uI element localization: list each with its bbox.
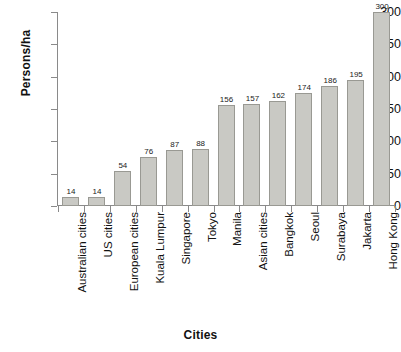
x-axis-label-slot: US cities [84, 212, 110, 322]
x-axis-label-slot: Bangkok [265, 212, 291, 322]
x-axis-title: Cities [0, 328, 401, 342]
bar-slot: 54 [110, 12, 136, 206]
bar [218, 105, 235, 206]
bar-chart: Persons/ha 050100150200250300 1414547687… [0, 0, 401, 352]
bars-container: 141454768788156157162174186195300 [58, 12, 395, 206]
bar-slot: 87 [162, 12, 188, 206]
bar-slot: 186 [317, 12, 343, 206]
x-axis-label-slot: European cities [110, 212, 136, 322]
bar [269, 101, 286, 206]
bar-slot: 157 [239, 12, 265, 206]
x-axis-label-slot: Kuala Lumpur [136, 212, 162, 322]
bar-slot: 174 [291, 12, 317, 206]
x-axis-label-slot: Australian cities [58, 212, 84, 322]
x-axis-labels: Australian citiesUS citiesEuropean citie… [58, 212, 395, 322]
bar [347, 80, 364, 206]
y-axis-tick [51, 206, 57, 207]
bar-value-label: 300 [365, 2, 399, 11]
x-axis-label-slot: Singapore [162, 212, 188, 322]
bar [295, 93, 312, 206]
x-axis-label-slot: Surabaya [317, 212, 343, 322]
bar-value-label: 54 [106, 161, 140, 170]
bar [166, 150, 183, 206]
bar-slot: 14 [58, 12, 84, 206]
x-axis-label-slot: Asian cities [239, 212, 265, 322]
bar [321, 86, 338, 206]
bar-slot: 300 [369, 12, 395, 206]
bar-slot: 88 [188, 12, 214, 206]
bar-value-label: 174 [287, 83, 321, 92]
bar [62, 197, 79, 206]
bar-slot: 162 [265, 12, 291, 206]
x-axis-label-slot: Seoul [291, 212, 317, 322]
bar-value-label: 162 [261, 91, 295, 100]
bar [373, 12, 390, 206]
bar [243, 104, 260, 206]
bar-value-label: 14 [80, 187, 114, 196]
bar [140, 157, 157, 206]
bar [192, 149, 209, 206]
x-axis-label-slot: Manila [214, 212, 240, 322]
bar [114, 171, 131, 206]
bar-slot: 195 [343, 12, 369, 206]
bar-value-label: 88 [184, 139, 218, 148]
bar-value-label: 195 [339, 70, 373, 79]
bar-slot: 76 [136, 12, 162, 206]
x-axis-label-slot: Tokyo [188, 212, 214, 322]
y-axis-title: Persons/ha [19, 3, 33, 123]
bar-slot: 156 [214, 12, 240, 206]
x-axis-label-slot: Jakarta [343, 212, 369, 322]
bar-slot: 14 [84, 12, 110, 206]
bar [88, 197, 105, 206]
x-axis-label-slot: Hong Kong [369, 212, 395, 322]
x-axis-category-label: Hong Kong [387, 212, 399, 270]
